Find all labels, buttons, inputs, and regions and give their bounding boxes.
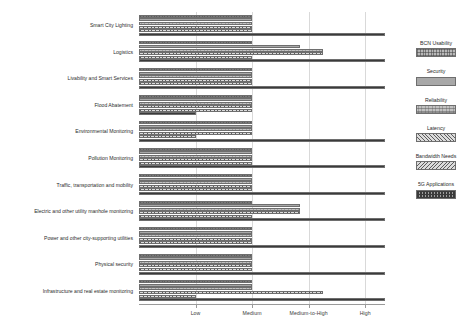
bar-latency [139,158,252,161]
bar-bandwidth-needs [139,135,196,138]
bar-reliability [139,181,252,184]
bar-reliability [139,75,252,78]
legend-item[interactable]: Security [409,68,463,85]
category-label: Pollution Monitoring [88,155,133,161]
bar-latency [139,105,252,108]
chart-legend: BCN UsabilitySecurityReliabilityLatencyB… [409,40,463,210]
bar-bcn-usability [139,148,252,151]
bar-bcn-usability [139,201,252,204]
bar-bandwidth-needs [139,268,252,271]
bar-security [139,125,252,128]
category-group: Physical security [139,251,385,278]
legend-swatch [416,161,456,170]
legend-label: Security [409,68,463,74]
bar-5g-applications [139,192,385,195]
bar-security [139,231,252,234]
bar-latency [139,132,252,135]
bar-5g-applications [139,59,385,62]
legend-label: BCN Usability [409,40,463,46]
bar-security [139,257,252,260]
bar-bcn-usability [139,95,252,98]
x-tick-label: High [360,310,371,316]
grouped-bar-chart: Smart City LightingLogisticsLivability a… [0,0,467,335]
bar-bcn-usability [139,280,252,283]
x-tick-label: Medium [243,310,262,316]
bar-bcn-usability [139,41,252,44]
bar-bandwidth-needs [139,56,252,59]
bar-bandwidth-needs [139,215,252,218]
x-tick-label: Medium-to-High [289,310,327,316]
legend-label: Bandwidth Needs [409,153,463,159]
category-label: Electric and other utility manhole monit… [34,208,133,214]
bar-bcn-usability [139,121,252,124]
bar-latency [139,185,252,188]
legend-item[interactable]: Latency [409,125,463,142]
legend-item[interactable]: Bandwidth Needs [409,153,463,170]
category-group: Pollution Monitoring [139,145,385,172]
bar-security [139,98,252,101]
category-label: Traffic, transportation and mobility [57,182,133,188]
bar-bandwidth-needs [139,295,196,298]
bar-reliability [139,22,252,25]
legend-item[interactable]: Reliability [409,97,463,114]
category-group: Environmental Monitoring [139,118,385,145]
bar-5g-applications [139,86,385,89]
category-label: Physical security [95,261,133,267]
bar-reliability [139,49,323,52]
bar-latency [139,238,252,241]
category-label: Smart City Lighting [90,22,133,28]
bar-latency [139,52,323,55]
x-axis-line [139,304,385,305]
bar-bandwidth-needs [139,241,252,244]
bar-latency [139,26,252,29]
bar-security [139,45,300,48]
category-group: Power and other city-supporting utilitie… [139,224,385,251]
legend-swatch [416,133,456,142]
legend-label: Reliability [409,97,463,103]
bar-5g-applications [139,298,385,301]
legend-swatch [416,48,456,57]
category-group: Electric and other utility manhole monit… [139,198,385,225]
legend-item[interactable]: 5G Applications [409,181,463,198]
legend-swatch [416,77,456,86]
category-group: Livability and Smart Services [139,65,385,92]
category-group: Traffic, transportation and mobility [139,171,385,198]
bar-bcn-usability [139,15,252,18]
bar-bandwidth-needs [139,109,252,112]
bar-5g-applications [139,139,385,142]
legend-swatch [416,105,456,114]
x-tick [365,304,366,308]
bar-security [139,284,252,287]
bar-5g-applications [139,272,385,275]
category-label: Logistics [113,49,133,55]
category-label: Flood Abatement [94,102,133,108]
bar-5g-applications [139,218,385,221]
bar-reliability [139,102,252,105]
bar-5g-applications [139,33,385,36]
bar-reliability [139,155,252,158]
category-group: Infrastructure and real estate monitorin… [139,277,385,304]
legend-swatch [416,190,456,199]
bar-bcn-usability [139,254,252,257]
bar-bcn-usability [139,68,252,71]
bar-bandwidth-needs [139,82,252,85]
bar-5g-applications [139,245,385,248]
x-tick [309,304,310,308]
bar-latency [139,264,252,267]
bar-reliability [139,128,252,131]
bar-reliability [139,261,252,264]
bar-latency [139,211,300,214]
legend-item[interactable]: BCN Usability [409,40,463,57]
x-tick-label: Low [191,310,201,316]
legend-label: Latency [409,125,463,131]
bar-reliability [139,287,252,290]
category-label: Environmental Monitoring [75,128,133,134]
category-group: Smart City Lighting [139,12,385,39]
bar-bcn-usability [139,174,252,177]
bar-reliability [139,234,252,237]
bar-5g-applications [139,112,196,115]
x-tick [252,304,253,308]
bar-bandwidth-needs [139,188,252,191]
category-label: Infrastructure and real estate monitorin… [43,288,133,294]
category-label: Livability and Smart Services [68,75,133,81]
